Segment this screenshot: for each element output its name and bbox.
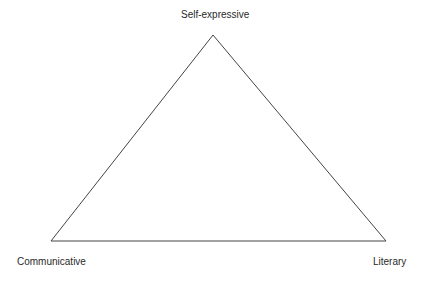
vertex-label-self-expressive: Self-expressive — [181, 9, 249, 20]
triangle-diagram — [0, 0, 424, 282]
triangle-shape — [51, 35, 386, 241]
vertex-label-communicative: Communicative — [17, 256, 86, 267]
vertex-label-literary: Literary — [373, 256, 406, 267]
